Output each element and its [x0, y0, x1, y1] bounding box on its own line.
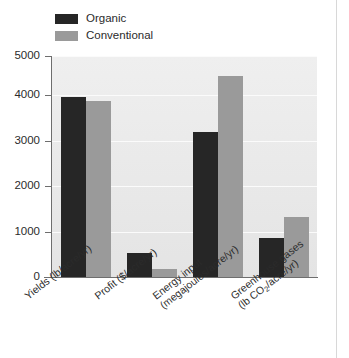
- legend-swatch-organic: [55, 14, 78, 24]
- y-tick-mark-4000: [45, 95, 51, 96]
- chart-legend: Organic Conventional: [55, 11, 153, 45]
- y-tick-label-2000: 2000: [14, 180, 40, 192]
- y-tick-label-5000: 5000: [14, 50, 40, 62]
- y-tick-label-1000: 1000: [14, 226, 40, 238]
- plot-area: [52, 56, 317, 277]
- page-margin-rule: [336, 0, 337, 358]
- y-tick-mark-2000: [45, 186, 51, 187]
- bar-chart-figure: Organic Conventional 5000 4000: [0, 0, 349, 358]
- legend-label-conventional: Conventional: [86, 30, 153, 42]
- legend-swatch-conventional: [55, 31, 78, 41]
- y-tick-label-4000: 4000: [14, 89, 40, 101]
- legend-item-conventional: Conventional: [55, 28, 153, 43]
- y-tick-mark-5000: [45, 56, 51, 57]
- legend-label-organic: Organic: [86, 13, 126, 25]
- gridline-5000: [52, 56, 317, 57]
- y-tick-mark-1000: [45, 232, 51, 233]
- y-tick-mark-3000: [45, 141, 51, 142]
- legend-item-organic: Organic: [55, 11, 153, 26]
- y-axis-line: [51, 56, 52, 278]
- y-tick-label-3000: 3000: [14, 135, 40, 147]
- gridline-4000: [52, 95, 317, 96]
